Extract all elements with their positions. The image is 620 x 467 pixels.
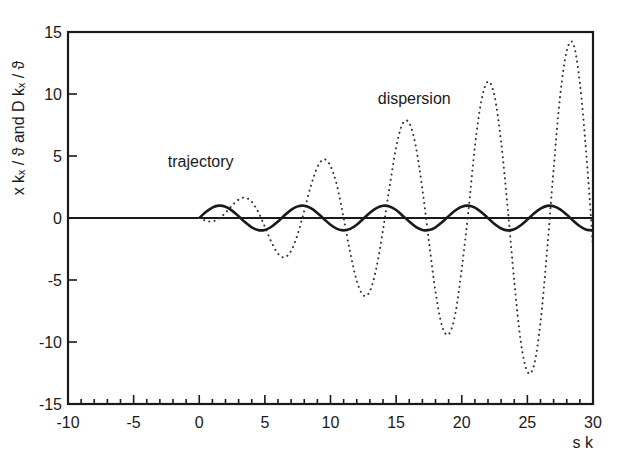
x-tick-label: -5 — [127, 414, 141, 431]
x-tick-label: 10 — [322, 414, 340, 431]
y-tick-label: -15 — [39, 396, 62, 413]
y-tick-label: 0 — [53, 210, 62, 227]
dispersion-annotation: dispersion — [378, 90, 451, 107]
trajectory-annotation: trajectory — [168, 153, 234, 170]
x-tick-label: -10 — [56, 414, 79, 431]
x-tick-label: 0 — [195, 414, 204, 431]
y-tick-label: 15 — [44, 24, 62, 41]
x-tick-label: 5 — [260, 414, 269, 431]
y-tick-label: 5 — [53, 148, 62, 165]
y-tick-label: -5 — [48, 272, 62, 289]
y-tick-label: 10 — [44, 86, 62, 103]
x-axis-label: s k — [573, 434, 594, 451]
y-axis-label: x kₓ / ϑ and D kₓ / ϑ — [10, 60, 27, 195]
x-tick-label: 25 — [518, 414, 536, 431]
x-tick-label: 20 — [453, 414, 471, 431]
x-tick-label: 15 — [387, 414, 405, 431]
y-tick-label: -10 — [39, 334, 62, 351]
chart: -10-5051015202530-15-10-5051015 trajecto… — [0, 0, 620, 467]
x-tick-label: 30 — [584, 414, 602, 431]
